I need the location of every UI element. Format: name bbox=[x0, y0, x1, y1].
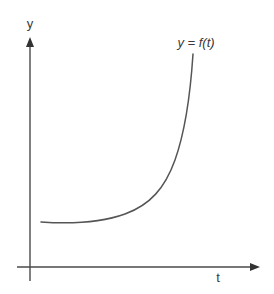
curve-label: y = f(t) bbox=[176, 35, 214, 50]
x-axis-arrow-icon bbox=[250, 263, 260, 271]
y-axis-label: y bbox=[27, 16, 34, 31]
function-graph: y t y = f(t) bbox=[0, 0, 274, 294]
y-axis-arrow-icon bbox=[26, 37, 34, 47]
function-curve bbox=[41, 54, 193, 223]
x-axis-label: t bbox=[216, 270, 220, 285]
